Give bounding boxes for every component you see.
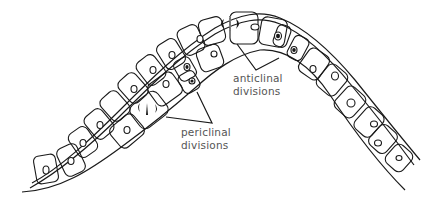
outer-boundary-inner <box>30 20 414 188</box>
periclinal-label: periclinal divisions <box>181 126 231 152</box>
epidermal-cells <box>33 12 415 185</box>
cell-arc-drawing <box>0 0 431 200</box>
anticlinal-label: anticlinal divisions <box>233 72 283 98</box>
anticlinal-label-line2: divisions <box>233 85 283 98</box>
anticlinal-pointer <box>237 44 279 70</box>
diagram-canvas: anticlinal divisions periclinal division… <box>0 0 431 200</box>
periclinal-label-line2: divisions <box>181 139 231 152</box>
periclinal-label-line1: periclinal <box>181 126 231 139</box>
anticlinal-label-line1: anticlinal <box>233 72 283 85</box>
